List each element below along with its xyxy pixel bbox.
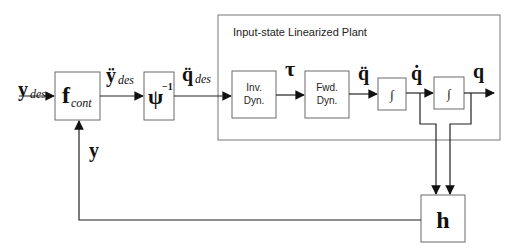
svg-text:cont: cont [71,96,92,110]
svg-text:q̈: q̈ [182,63,193,86]
svg-text:des: des [118,73,134,87]
svg-text:Fwd.: Fwd. [316,82,338,93]
svg-text:Dyn.: Dyn. [317,95,338,106]
block-forward-dynamics: Fwd. Dyn. [305,71,349,118]
signal-qdd: q̈ [358,62,369,85]
signal-y-feedback: y [89,139,99,162]
signal-qd: q̇ [411,62,422,85]
signal-ydd-des: ÿ des [106,64,134,87]
control-block-diagram: Input-state Linearized Plant y des f con… [0,0,519,252]
svg-text:y: y [18,78,28,101]
signal-y-des: y des [18,78,46,101]
signal-tau: τ [285,56,295,81]
signal-q: q [473,60,484,83]
svg-text:Inv.: Inv. [246,82,261,93]
signal-qdd-des: q̈ des [182,63,211,86]
svg-text:f: f [62,82,71,108]
svg-text:Dyn.: Dyn. [244,95,265,106]
svg-text:des: des [195,72,211,86]
svg-text:des: des [30,87,46,101]
block-f-cont: f cont [55,72,100,120]
svg-text:ÿ: ÿ [106,64,116,87]
block-inverse-dynamics: Inv. Dyn. [232,71,276,118]
block-integrator-2: ∫ [434,77,464,109]
block-integrator-1: ∫ [378,78,406,110]
svg-text:−1: −1 [162,81,173,92]
svg-text:h: h [436,207,449,233]
svg-text:ψ: ψ [148,84,163,109]
plant-title: Input-state Linearized Plant [233,26,367,38]
block-psi-inverse: ψ −1 [144,72,174,120]
block-h: h [421,195,465,242]
